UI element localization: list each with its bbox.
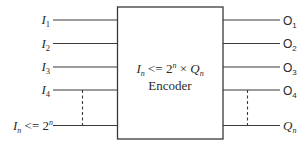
input-label-3: I3 [40,59,50,76]
encoder-label: Encoder [148,78,192,93]
output-label-n: Qn [283,118,296,135]
input-label-2: I2 [40,36,50,53]
input-label-4: I4 [40,82,50,99]
input-label-n: In <= 2n [12,118,53,135]
encoder-formula: In <= 2n × Qn [135,61,203,78]
output-label-4: O4 [283,84,297,100]
encoder-diagram: I1 I2 I3 I4 In <= 2n O1 O2 O3 O4 Qn In <… [0,0,305,149]
output-label-2: O2 [283,37,297,53]
output-label-3: O3 [283,61,297,77]
input-label-1: I1 [40,12,50,29]
output-label-1: O1 [283,14,297,30]
